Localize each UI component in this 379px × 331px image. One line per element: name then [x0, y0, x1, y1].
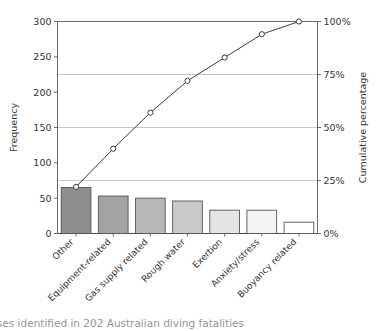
bar-5[interactable] — [247, 210, 277, 233]
y2-tick-label: 25% — [324, 175, 345, 186]
cumulative-marker-0[interactable] — [73, 184, 78, 189]
category-label-4: Exertion — [191, 237, 224, 270]
category-label-2: Gas supply related — [83, 237, 150, 304]
bar-0[interactable] — [61, 188, 91, 234]
y2-tick-label: 100% — [324, 16, 351, 27]
cumulative-marker-5[interactable] — [259, 32, 264, 37]
y-tick-label: 50 — [39, 193, 51, 204]
y2-tick-label: 75% — [324, 69, 345, 80]
cumulative-marker-6[interactable] — [296, 19, 301, 24]
bar-1[interactable] — [98, 196, 128, 233]
y2-tick-label: 50% — [324, 122, 345, 133]
bar-6[interactable] — [284, 222, 314, 233]
y-tick-label: 150 — [33, 122, 51, 133]
cumulative-line — [76, 22, 299, 187]
y-axis-title: Frequency — [8, 103, 19, 152]
pareto-chart: 0501001502002503000%25%50%75%100%OtherEq… — [0, 0, 379, 331]
bar-3[interactable] — [173, 201, 203, 234]
bar-4[interactable] — [210, 210, 240, 233]
cumulative-marker-2[interactable] — [148, 110, 153, 115]
cumulative-marker-1[interactable] — [111, 146, 116, 151]
pareto-chart-figure: 0501001502002503000%25%50%75%100%OtherEq… — [0, 0, 379, 331]
y2-axis-title: Cumulative percentage — [357, 72, 368, 183]
y2-tick-label: 0% — [324, 228, 339, 239]
category-label-1: Equipment-related — [46, 237, 112, 303]
y-tick-label: 300 — [33, 16, 51, 27]
y-tick-label: 250 — [33, 51, 51, 62]
y-tick-label: 100 — [33, 157, 51, 168]
figure-caption: causes identified in 202 Australian divi… — [0, 317, 379, 330]
cumulative-marker-3[interactable] — [185, 78, 190, 83]
category-label-0: Other — [50, 237, 75, 262]
y-tick-label: 0 — [45, 228, 51, 239]
cumulative-marker-4[interactable] — [222, 55, 227, 60]
bar-2[interactable] — [136, 198, 166, 233]
y-tick-label: 200 — [33, 87, 51, 98]
